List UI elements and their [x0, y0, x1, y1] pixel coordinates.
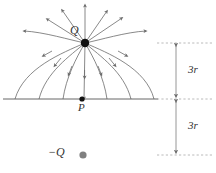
- field-arrow-left-3: [43, 51, 52, 56]
- field-line-right-2: [85, 43, 131, 99]
- label-charge-Q: Q: [70, 24, 79, 36]
- label-charge-negative-Q: −Q: [48, 146, 65, 158]
- dimension-annotations: [157, 43, 212, 155]
- charge-Q-dot: [81, 39, 89, 47]
- field-arrow-right-1: [98, 66, 102, 75]
- figure-canvas: [0, 0, 216, 173]
- label-point-P: P: [78, 102, 85, 113]
- ray-upper-right: [85, 11, 107, 43]
- field-arrow-left-1: [69, 66, 73, 75]
- physics-figure: Q P −Q 3r 3r: [0, 0, 216, 173]
- radiating-rays: [24, 5, 146, 43]
- field-arrow-right-3: [118, 51, 127, 56]
- label-dimension-top: 3r: [188, 64, 198, 75]
- ray-upper-right-shallow: [85, 18, 122, 43]
- ray-upper-left-shallow: [47, 19, 85, 43]
- label-dimension-bottom: 3r: [188, 120, 198, 131]
- charge-negative-Q-dot: [79, 151, 86, 158]
- field-line-left-2: [39, 43, 85, 99]
